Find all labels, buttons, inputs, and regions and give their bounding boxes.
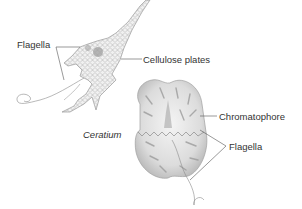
caption-ceratium: Ceratium (83, 129, 122, 140)
diagram-canvas (0, 0, 302, 209)
dinoflagellate-cell (135, 80, 207, 179)
ceratium-cell (62, 0, 150, 112)
label-chromatophore: Chromatophore (219, 111, 285, 122)
label-cellulose-plates: Cellulose plates (143, 54, 210, 65)
label-flagella-dinoflagellate: Flagella (229, 141, 262, 152)
label-flagella-ceratium: Flagella (17, 39, 50, 50)
